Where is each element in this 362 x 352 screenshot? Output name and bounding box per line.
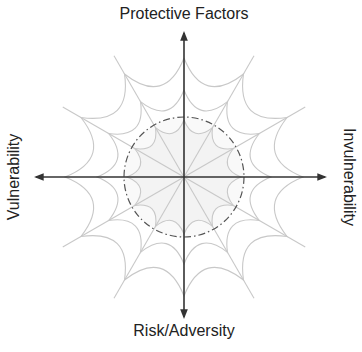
axis-label-vulnerability: Vulnerability	[5, 134, 23, 221]
axis-label-protective-factors: Protective Factors	[0, 5, 362, 23]
axis-label-invulnerability: Invulnerability	[340, 128, 358, 226]
spider-web-diagram	[0, 0, 362, 352]
axis-label-risk-adversity: Risk/Adversity	[0, 322, 362, 340]
